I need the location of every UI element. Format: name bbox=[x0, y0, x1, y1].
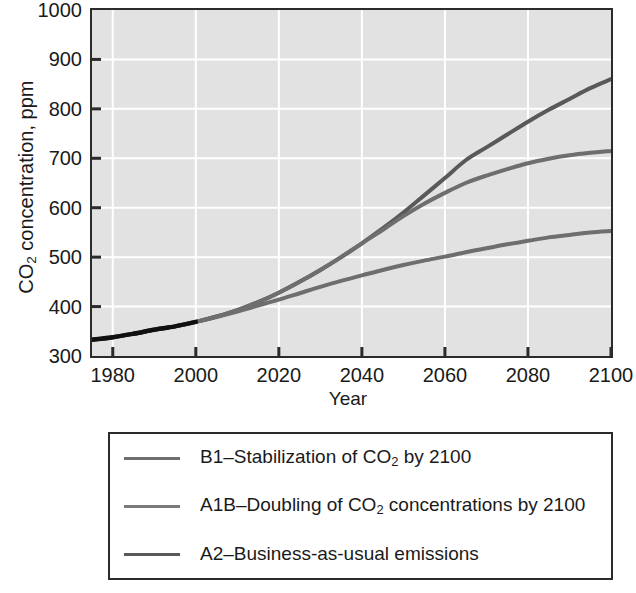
series-line-a1b bbox=[92, 151, 611, 340]
legend-line-swatch bbox=[124, 505, 180, 508]
x-tick-label: 2040 bbox=[327, 364, 397, 387]
y-tick-label: 600 bbox=[16, 198, 82, 218]
legend-label-prefix: A2–Business-as-usual emissions bbox=[200, 543, 479, 564]
legend-line-swatch bbox=[124, 553, 180, 556]
legend-item-label: A1B–Doubling of CO2 concentrations by 21… bbox=[200, 494, 585, 517]
x-tick-label: 2100 bbox=[576, 364, 636, 387]
y-tick-label: 700 bbox=[16, 148, 82, 168]
x-tick-label: 2060 bbox=[410, 364, 480, 387]
legend-line-swatch bbox=[124, 457, 180, 460]
co2-concentration-figure: CO2 concentration, ppm 30040050060070080… bbox=[0, 0, 636, 593]
legend-label-subscript: 2 bbox=[376, 503, 383, 518]
y-tick-label: 800 bbox=[16, 99, 82, 119]
legend-item[interactable]: A1B–Doubling of CO2 concentrations by 21… bbox=[110, 482, 611, 530]
legend-item-label: A2–Business-as-usual emissions bbox=[200, 543, 479, 565]
legend-label-suffix: by 2100 bbox=[398, 446, 471, 467]
y-tick-label: 900 bbox=[16, 49, 82, 69]
legend-label-suffix: concentrations by 2100 bbox=[384, 494, 586, 515]
legend-item[interactable]: A2–Business-as-usual emissions bbox=[110, 530, 611, 578]
y-tick-label: 400 bbox=[16, 297, 82, 317]
legend-item-label: B1–Stabilization of CO2 by 2100 bbox=[200, 446, 471, 469]
legend-label-prefix: A1B–Doubling of CO bbox=[200, 494, 376, 515]
chart-plot-region: CO2 concentration, ppm 30040050060070080… bbox=[0, 0, 636, 420]
legend-item[interactable]: B1–Stabilization of CO2 by 2100 bbox=[110, 434, 611, 482]
series-line-historical bbox=[92, 322, 196, 340]
legend-rows: B1–Stabilization of CO2 by 2100A1B–Doubl… bbox=[110, 434, 611, 578]
chart-legend: B1–Stabilization of CO2 by 2100A1B–Doubl… bbox=[108, 432, 613, 580]
legend-label-prefix: B1–Stabilization of CO bbox=[200, 446, 391, 467]
y-tick-label: 300 bbox=[16, 346, 82, 366]
y-tick-label: 500 bbox=[16, 247, 82, 267]
series-line-a2 bbox=[92, 79, 611, 339]
x-tick-label: 1980 bbox=[78, 364, 148, 387]
plot-area bbox=[90, 8, 613, 358]
y-tick-label: 1000 bbox=[16, 0, 82, 20]
x-tick-label: 2080 bbox=[493, 364, 563, 387]
x-tick-label: 2020 bbox=[244, 364, 314, 387]
x-axis-title: Year bbox=[0, 388, 636, 410]
series-lines-svg bbox=[92, 10, 611, 356]
x-tick-label: 2000 bbox=[161, 364, 231, 387]
series-line-b1 bbox=[92, 231, 611, 340]
